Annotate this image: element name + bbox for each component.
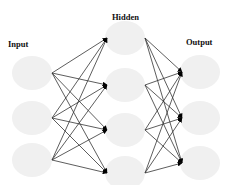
input-node-2 — [12, 101, 52, 135]
hidden-node-4 — [105, 156, 145, 185]
network-graph — [0, 0, 230, 185]
connection-arrow — [52, 38, 107, 160]
connection-arrow — [52, 73, 107, 85]
connection-arrow — [145, 118, 182, 130]
hidden-node-1 — [105, 21, 145, 55]
connection-arrow — [52, 118, 107, 173]
connection-arrow — [145, 38, 182, 118]
output-node-3 — [180, 146, 220, 180]
connection-arrow — [145, 38, 182, 72]
output-node-1 — [180, 55, 220, 89]
connection-arrow — [52, 130, 107, 160]
connection-arrow — [52, 38, 107, 118]
connection-arrow — [145, 72, 182, 85]
output-layer-label: Output — [186, 37, 212, 47]
connection-arrow — [52, 118, 107, 130]
connection-arrow — [52, 85, 107, 118]
neural-network-diagram: Input Hidden Output — [0, 0, 230, 185]
hidden-layer-label: Hidden — [112, 12, 139, 22]
output-node-2 — [180, 101, 220, 135]
connection-arrow — [52, 160, 107, 173]
input-layer-label: Input — [8, 39, 28, 49]
hidden-node-2 — [105, 68, 145, 102]
input-node-1 — [12, 56, 52, 90]
connection-arrow — [145, 72, 182, 130]
edges-group — [52, 38, 182, 173]
connection-arrow — [52, 85, 107, 160]
hidden-node-3 — [105, 113, 145, 147]
input-node-3 — [12, 143, 52, 177]
